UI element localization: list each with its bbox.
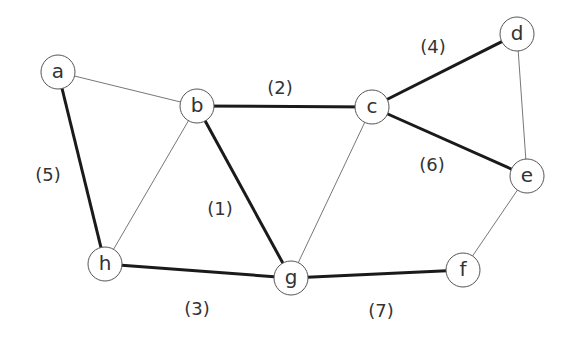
node-a: a xyxy=(41,55,75,89)
node-label: a xyxy=(52,59,64,83)
edges-layer xyxy=(58,34,527,278)
node-e: e xyxy=(510,159,544,193)
node-label: f xyxy=(459,257,467,281)
node-label: b xyxy=(191,93,204,117)
node-label: e xyxy=(521,163,533,187)
edge-b-g xyxy=(197,106,291,278)
edge-weight-label: (1) xyxy=(207,198,233,219)
node-label: c xyxy=(367,94,378,118)
edge-weight-label: (6) xyxy=(419,154,445,175)
edge-c-g xyxy=(291,107,372,278)
node-b: b xyxy=(180,89,214,123)
node-label: d xyxy=(511,21,524,45)
edge-weight-label: (4) xyxy=(420,36,446,57)
edge-b-c xyxy=(197,106,372,107)
node-f: f xyxy=(446,253,480,287)
edge-g-f xyxy=(291,270,463,278)
edge-weight-label: (3) xyxy=(184,298,210,319)
graph-diagram: (5)(2)(1)(4)(6)(3)(7) abcdefgh xyxy=(0,0,567,342)
edge-weight-label: (5) xyxy=(35,164,61,185)
edge-a-h xyxy=(58,72,105,264)
edge-d-e xyxy=(517,34,527,176)
edge-h-g xyxy=(105,264,291,278)
node-label: g xyxy=(285,265,298,289)
node-h: h xyxy=(88,247,122,281)
edge-b-h xyxy=(105,106,197,264)
edge-weight-label: (2) xyxy=(267,77,293,98)
node-c: c xyxy=(355,90,389,124)
edge-weight-label: (7) xyxy=(368,300,394,321)
edge-c-e xyxy=(372,107,527,176)
node-g: g xyxy=(274,261,308,295)
edge-a-b xyxy=(58,72,197,106)
node-d: d xyxy=(500,17,534,51)
node-label: h xyxy=(99,251,112,275)
